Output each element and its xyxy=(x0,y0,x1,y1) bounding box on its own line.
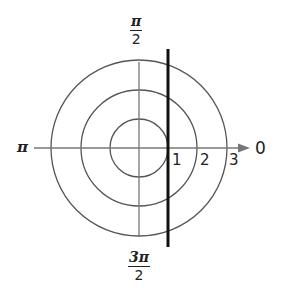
angle-label-3pi-over-2: 3π 2 xyxy=(128,250,150,282)
radius-label-1: 1 xyxy=(172,153,182,168)
arrow-right-icon xyxy=(238,144,250,153)
radius-label-2: 2 xyxy=(200,153,210,168)
angle-label-pi: π xyxy=(17,140,28,155)
radius-label-3: 3 xyxy=(229,153,239,168)
angle-label-pi-over-2: π 2 xyxy=(130,14,142,46)
angle-label-zero: 0 xyxy=(255,140,266,157)
